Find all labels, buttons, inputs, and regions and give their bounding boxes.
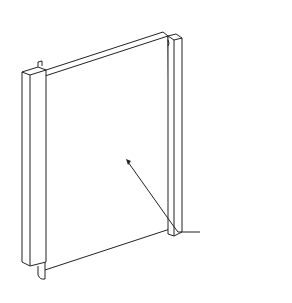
right-stiffener bbox=[168, 34, 182, 236]
buckled-plate-diagram bbox=[0, 0, 292, 303]
leader-arrowhead bbox=[126, 159, 131, 165]
left-stub bbox=[38, 266, 45, 279]
left-stiffener bbox=[22, 61, 46, 266]
plate bbox=[40, 32, 170, 270]
local-buckling-leader bbox=[128, 162, 200, 232]
